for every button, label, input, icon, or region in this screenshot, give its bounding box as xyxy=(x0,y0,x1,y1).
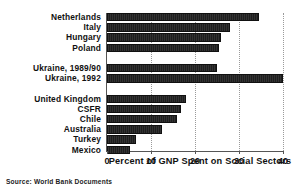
x-axis-title: Percent of GNP Spent on Social Sectors xyxy=(107,156,293,166)
bar-netherlands xyxy=(107,13,259,21)
bar-chile xyxy=(107,115,177,123)
bar-hungary xyxy=(107,33,221,41)
x-tick-20 xyxy=(195,151,196,154)
category-label-csfr: CSFR xyxy=(78,105,101,114)
x-tick-10 xyxy=(151,151,152,154)
bar-italy xyxy=(107,23,230,31)
category-label-hungary: Hungary xyxy=(66,33,101,42)
x-tick-30 xyxy=(239,151,240,154)
plot-area: 0 10 20 30 40 xyxy=(107,13,283,151)
bar-ukraine-1989-90 xyxy=(107,64,217,72)
bar-csfr xyxy=(107,105,181,113)
bar-turkey xyxy=(107,135,136,143)
category-label-ukraine-1992: Ukraine, 1992 xyxy=(45,74,101,83)
bar-mexico xyxy=(107,146,130,154)
category-label-turkey: Turkey xyxy=(73,135,101,144)
x-tick-40 xyxy=(283,151,284,154)
bar-poland xyxy=(107,44,219,52)
category-label-netherlands: Netherlands xyxy=(51,13,101,22)
category-label-australia: Australia xyxy=(64,125,101,134)
category-label-ukraine-1989-90: Ukraine, 1989/90 xyxy=(33,64,101,73)
bar-ukraine-1992 xyxy=(107,74,283,82)
bar-united-kingdom xyxy=(107,95,186,103)
source-note: Source: World Bank Documents xyxy=(6,178,112,185)
category-label-united-kingdom: United Kingdom xyxy=(34,95,101,104)
category-axis-labels: Netherlands Italy Hungary Poland Ukraine… xyxy=(0,13,104,151)
category-label-mexico: Mexico xyxy=(72,146,101,155)
category-label-poland: Poland xyxy=(72,44,101,53)
gridline-40 xyxy=(283,13,284,151)
bar-australia xyxy=(107,125,162,133)
category-label-chile: Chile xyxy=(80,115,101,124)
category-label-italy: Italy xyxy=(83,23,101,32)
bar-chart: Netherlands Italy Hungary Poland Ukraine… xyxy=(0,0,298,195)
x-tick-0 xyxy=(107,151,108,154)
